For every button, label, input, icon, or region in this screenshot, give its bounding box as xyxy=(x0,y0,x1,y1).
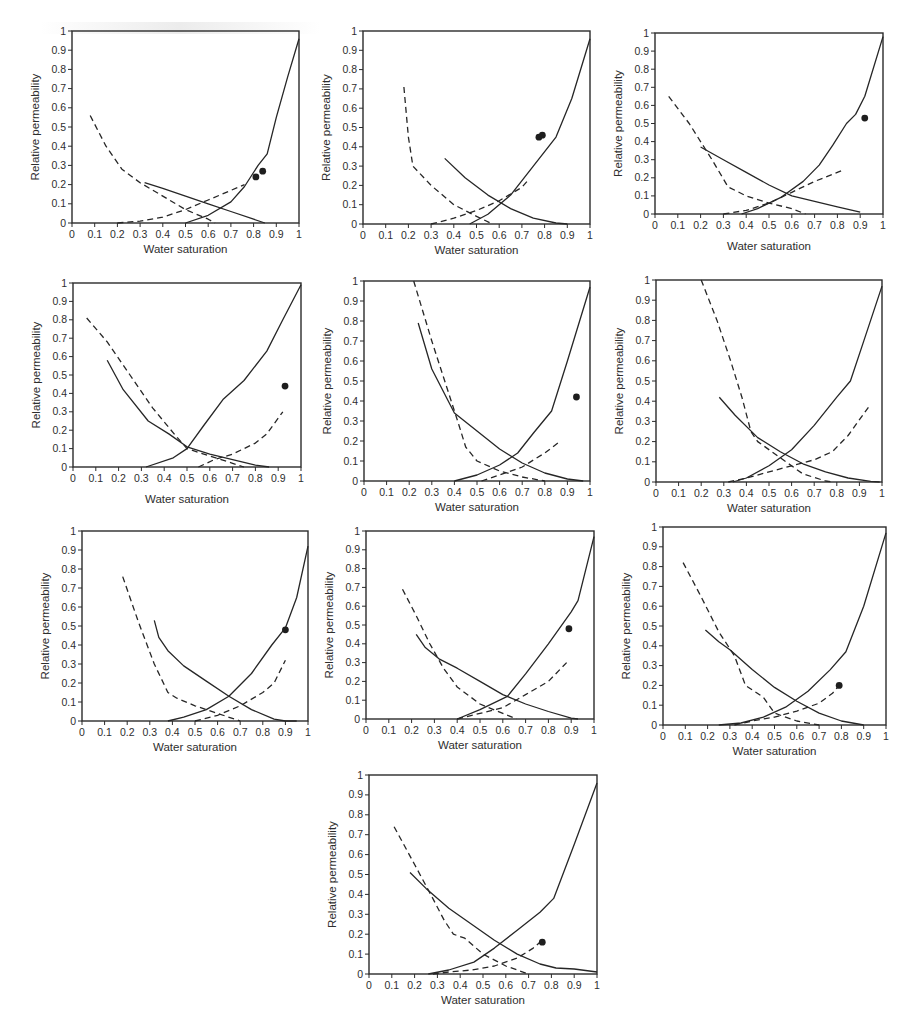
data-point-marker xyxy=(259,168,266,175)
x-tick-label: 0.6 xyxy=(492,229,507,241)
krw-model-curve xyxy=(742,37,883,214)
y-tick-label: 0.1 xyxy=(642,699,657,711)
y-axis-label: Relative permeability xyxy=(30,321,42,428)
x-tick-label: 0.8 xyxy=(544,979,559,991)
y-tick-label: 0.5 xyxy=(348,868,363,880)
y-tick-label: 0 xyxy=(61,461,67,473)
x-tick-label: 0.1 xyxy=(671,487,686,499)
krw-data-curve xyxy=(482,441,561,481)
x-tick-label: 0.2 xyxy=(401,229,416,241)
x-tick-label: 0.8 xyxy=(537,229,552,241)
kro-model-curve xyxy=(416,634,578,719)
x-tick-label: 0.6 xyxy=(202,472,217,484)
y-tick-label: 0.5 xyxy=(343,375,358,387)
plot-frame xyxy=(73,283,301,467)
data-point-marker xyxy=(566,625,573,632)
krw-model-curve xyxy=(168,546,308,721)
x-tick-label: 0.7 xyxy=(224,228,239,240)
x-tick-label: 0.6 xyxy=(784,487,799,499)
x-tick-label: 0.4 xyxy=(745,730,760,742)
krw-data-curve xyxy=(723,171,842,214)
x-tick-label: 1 xyxy=(587,486,593,498)
y-tick-label: 0.2 xyxy=(52,424,67,436)
x-tick-label: 0.2 xyxy=(694,487,709,499)
x-tick-label: 0.6 xyxy=(498,979,513,991)
y-tick-label: 0.8 xyxy=(348,808,363,820)
krw-model-curve xyxy=(146,285,301,467)
y-tick-label: 0.4 xyxy=(52,387,67,399)
x-tick-label: 0.3 xyxy=(427,724,442,736)
krw-model-curve xyxy=(719,533,886,725)
y-tick-label: 0.2 xyxy=(342,179,357,191)
x-tick-label: 0.1 xyxy=(97,726,112,738)
y-tick-label: 0.6 xyxy=(348,848,363,860)
kro-model-curve xyxy=(701,147,861,212)
y-tick-label: 0.4 xyxy=(342,140,357,152)
y-tick-label: 0.5 xyxy=(345,619,360,631)
kro-model-curve xyxy=(418,323,583,481)
x-axis-label: Water saturation xyxy=(153,741,237,753)
y-axis-label: Relative permeability xyxy=(321,327,333,434)
y-tick-label: 0.8 xyxy=(634,63,649,75)
x-tick-label: 0.6 xyxy=(495,724,510,736)
panel-1: 000.10.10.20.20.30.30.40.40.50.50.60.60.… xyxy=(29,25,302,256)
y-tick-label: 0 xyxy=(354,713,360,725)
y-tick-label: 0.8 xyxy=(51,63,66,75)
y-tick-label: 0.6 xyxy=(52,350,67,362)
kro-data-curve xyxy=(394,827,528,974)
y-tick-label: 0.4 xyxy=(635,395,650,407)
y-tick-label: 0.4 xyxy=(345,637,360,649)
y-tick-label: 0.5 xyxy=(51,121,66,133)
y-tick-label: 1 xyxy=(643,27,649,39)
plot-frame xyxy=(82,531,308,721)
x-tick-label: 0.2 xyxy=(120,726,135,738)
x-tick-label: 0.5 xyxy=(180,472,195,484)
y-tick-label: 0.2 xyxy=(634,171,649,183)
kro-data-curve xyxy=(87,318,244,467)
x-tick-label: 0.3 xyxy=(133,228,148,240)
x-tick-label: 1 xyxy=(594,979,600,991)
y-tick-label: 0.4 xyxy=(634,135,649,147)
x-tick-label: 0 xyxy=(366,979,372,991)
y-tick-label: 0.7 xyxy=(342,82,357,94)
y-tick-label: 0.2 xyxy=(348,928,363,940)
x-tick-label: 0.4 xyxy=(447,486,462,498)
y-tick-label: 0.4 xyxy=(51,140,66,152)
x-tick-label: 0.9 xyxy=(271,472,286,484)
y-tick-label: 0.6 xyxy=(61,601,76,613)
y-tick-label: 0.2 xyxy=(345,675,360,687)
y-tick-label: 0.6 xyxy=(343,355,358,367)
y-tick-label: 0.3 xyxy=(52,405,67,417)
y-axis-label: Relative permeability xyxy=(612,70,624,177)
x-tick-label: 0.3 xyxy=(723,730,738,742)
x-axis-label: Water saturation xyxy=(727,502,811,514)
x-tick-label: 0.4 xyxy=(155,228,170,240)
panel-8: 000.10.10.20.20.30.30.40.40.50.50.60.60.… xyxy=(323,525,597,752)
x-tick-label: 0.9 xyxy=(278,726,293,738)
y-axis-label: Relative permeability xyxy=(323,571,335,678)
y-tick-label: 0.6 xyxy=(345,600,360,612)
kro-data-curve xyxy=(404,87,493,224)
panel-7: 000.10.10.20.20.30.30.40.40.50.50.60.60.… xyxy=(39,525,311,754)
x-tick-label: 0.3 xyxy=(430,979,445,991)
x-tick-label: 0.1 xyxy=(379,486,394,498)
x-tick-label: 0.4 xyxy=(446,229,461,241)
y-tick-label: 0.1 xyxy=(52,442,67,454)
x-tick-label: 0.1 xyxy=(670,219,685,231)
y-tick-label: 0.3 xyxy=(345,656,360,668)
y-tick-label: 0.7 xyxy=(635,334,650,346)
x-tick-label: 0.8 xyxy=(537,486,552,498)
x-tick-label: 0.1 xyxy=(88,472,103,484)
y-tick-label: 0.8 xyxy=(343,315,358,327)
x-tick-label: 0.8 xyxy=(830,219,845,231)
y-tick-label: 1 xyxy=(60,25,66,37)
kro-model-curve xyxy=(719,397,879,482)
y-tick-label: 0.2 xyxy=(635,435,650,447)
x-tick-label: 0.1 xyxy=(384,979,399,991)
y-tick-label: 0.8 xyxy=(345,562,360,574)
x-tick-label: 0.9 xyxy=(852,487,867,499)
x-axis-label: Water saturation xyxy=(144,243,228,255)
plot-frame xyxy=(366,531,594,719)
x-axis-label: Water saturation xyxy=(441,994,525,1006)
x-axis-label: Water saturation xyxy=(438,739,522,751)
